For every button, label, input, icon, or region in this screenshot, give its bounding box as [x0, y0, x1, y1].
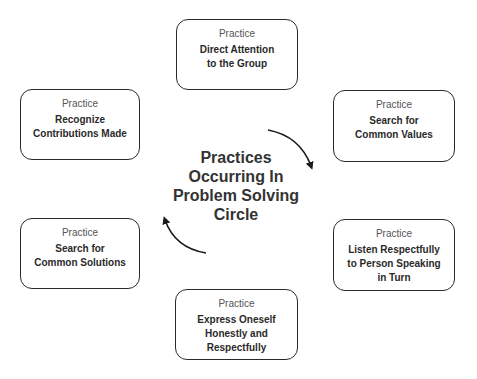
label-line: Recognize	[21, 113, 139, 127]
practice-box-common-solutions: Practice Search for Common Solutions	[20, 218, 140, 289]
practice-kicker: Practice	[334, 98, 454, 112]
label-line: Honestly and	[176, 327, 297, 341]
practice-kicker: Practice	[334, 227, 454, 241]
label-line: Common Solutions	[21, 256, 139, 270]
label-line: in Turn	[334, 271, 454, 285]
practice-label: Direct Attention to the Group	[177, 43, 297, 71]
label-line: Express Oneself	[176, 313, 297, 327]
label-line: Contributions Made	[21, 127, 139, 141]
label-line: Common Values	[334, 128, 454, 142]
title-line: Occurring In	[168, 167, 304, 186]
label-line: Search for	[21, 242, 139, 256]
practice-kicker: Practice	[21, 226, 139, 240]
label-line: Listen Respectfully	[334, 243, 454, 257]
practice-label: Listen Respectfully to Person Speaking i…	[334, 243, 454, 285]
practice-box-listen-respectfully: Practice Listen Respectfully to Person S…	[333, 219, 455, 291]
label-line: to the Group	[177, 57, 297, 71]
practice-kicker: Practice	[21, 97, 139, 111]
practice-box-express-oneself: Practice Express Oneself Honestly and Re…	[175, 289, 298, 360]
label-line: Respectfully	[176, 341, 297, 355]
practice-kicker: Practice	[177, 27, 297, 41]
label-line: Search for	[334, 114, 454, 128]
practice-label: Recognize Contributions Made	[21, 113, 139, 141]
title-line: Problem Solving	[168, 186, 304, 205]
practice-box-common-values: Practice Search for Common Values	[333, 90, 455, 162]
practice-kicker: Practice	[176, 297, 297, 311]
arrow-bottom-left-icon	[165, 220, 206, 253]
diagram-title: Practices Occurring In Problem Solving C…	[168, 148, 304, 224]
practice-box-recognize-contributions: Practice Recognize Contributions Made	[20, 89, 140, 160]
practice-box-direct-attention: Practice Direct Attention to the Group	[176, 19, 298, 90]
title-line: Practices	[168, 148, 304, 167]
label-line: to Person Speaking	[334, 257, 454, 271]
title-line: Circle	[168, 205, 304, 224]
practice-label: Search for Common Values	[334, 114, 454, 142]
label-line: Direct Attention	[177, 43, 297, 57]
practice-label: Express Oneself Honestly and Respectfull…	[176, 313, 297, 355]
practice-label: Search for Common Solutions	[21, 242, 139, 270]
